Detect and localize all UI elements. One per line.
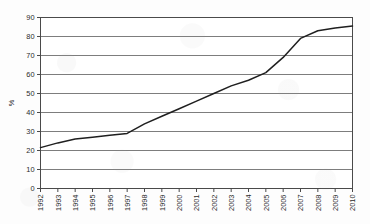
y-tick-label-20: 20 — [26, 146, 34, 155]
y-tick-label-30: 30 — [26, 127, 34, 136]
x-tick-label-2010: 2010 — [348, 195, 357, 211]
x-tick-label-1999: 1999 — [158, 195, 167, 211]
y-tick-label-0: 0 — [30, 184, 34, 193]
x-tick-label-2005: 2005 — [262, 195, 271, 211]
x-tick-label-2001: 2001 — [192, 195, 201, 211]
x-tick-label-1993: 1993 — [54, 195, 63, 211]
line-chart: 0102030405060708090 19921993199419951996… — [0, 0, 370, 224]
plot-background — [41, 18, 353, 189]
x-tick-label-2008: 2008 — [314, 195, 323, 211]
x-tick-label-2006: 2006 — [279, 195, 288, 211]
y-tick-label-90: 90 — [26, 13, 34, 22]
x-tick-label-2000: 2000 — [175, 195, 184, 211]
x-tick-label-1997: 1997 — [123, 195, 132, 211]
y-tick-label-10: 10 — [26, 165, 34, 174]
y-tick-label-80: 80 — [26, 32, 34, 41]
x-tick-label-2004: 2004 — [244, 195, 253, 211]
x-tick-label-2002: 2002 — [210, 195, 219, 211]
x-tick-label-2003: 2003 — [227, 195, 236, 211]
y-axis-title: % — [7, 99, 16, 106]
y-tick-label-60: 60 — [26, 70, 34, 79]
chart-figure: 0102030405060708090 19921993199419951996… — [0, 0, 370, 224]
x-tick-label-2009: 2009 — [331, 195, 340, 211]
x-tick-label-1994: 1994 — [71, 195, 80, 211]
y-tick-label-50: 50 — [26, 89, 34, 98]
y-tick-label-40: 40 — [26, 108, 34, 117]
x-tick-label-2007: 2007 — [296, 195, 305, 211]
x-tick-label-1998: 1998 — [140, 195, 149, 211]
y-tick-label-70: 70 — [26, 51, 34, 60]
x-axis-ticks: 1992199319941995199619971998199920002001… — [36, 189, 357, 211]
x-tick-label-1996: 1996 — [106, 195, 115, 211]
x-tick-label-1995: 1995 — [88, 195, 97, 211]
x-tick-label-1992: 1992 — [36, 195, 45, 211]
y-axis-ticks: 0102030405060708090 — [26, 13, 40, 193]
